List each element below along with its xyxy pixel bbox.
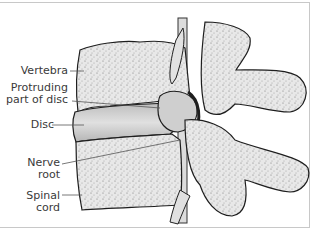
upper-posterior-process [201,22,306,115]
label-nerve-root: Nerve root [0,157,60,181]
label-spinal-cord: Spinal cord [0,190,60,214]
lower-vertebra [76,134,182,210]
label-disc: Disc [0,119,54,131]
label-protruding-disc: Protruding part of disc [0,82,68,106]
label-vertebra: Vertebra [0,65,68,77]
lower-posterior-process [185,120,309,216]
